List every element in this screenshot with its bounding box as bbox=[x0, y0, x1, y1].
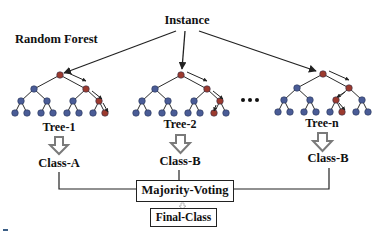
down-arrow-icon-1 bbox=[50, 137, 68, 154]
tree-n-prediction: Class-B bbox=[308, 151, 349, 166]
down-arrow-icon-n bbox=[313, 133, 332, 151]
tree-2-graph bbox=[133, 72, 230, 117]
tree-2-label: Tree-2 bbox=[164, 117, 197, 132]
tree-n-label: Tree-n bbox=[305, 116, 339, 131]
majority-voting-box: Majority-Voting bbox=[136, 180, 234, 202]
tree-1-prediction: Class-A bbox=[38, 156, 80, 171]
final-class-box: Final-Class bbox=[150, 208, 217, 227]
instance-arrows bbox=[64, 31, 316, 73]
corner-mark bbox=[3, 229, 8, 231]
arrow-to-tree-n bbox=[199, 31, 316, 71]
tree-2-prediction: Class-B bbox=[160, 154, 201, 169]
down-arrow-icons bbox=[50, 133, 332, 154]
tree-1-label: Tree-1 bbox=[43, 120, 76, 135]
tree-1-graph bbox=[12, 72, 109, 117]
ellipsis-icon bbox=[241, 98, 259, 102]
instance-label: Instance bbox=[164, 13, 209, 28]
section-label: Random Forest bbox=[15, 32, 98, 47]
tree-n-graph bbox=[275, 71, 372, 116]
down-arrow-icon-2 bbox=[171, 135, 190, 153]
arrow-to-tree-2 bbox=[182, 31, 185, 69]
